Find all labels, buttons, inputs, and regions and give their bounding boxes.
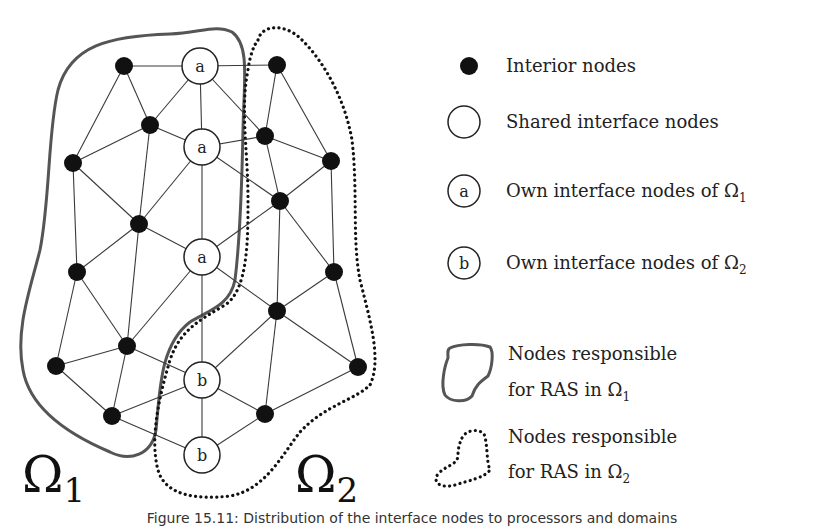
interface-node-label: b [197, 371, 207, 390]
mesh-edge [73, 66, 124, 163]
mesh-edge [127, 224, 139, 346]
legend-label: Own interface nodes of Ω2 [506, 252, 747, 277]
filled-circle-icon [460, 57, 478, 75]
mesh-edge [73, 163, 77, 272]
legend-item-shared: Shared interface nodes [448, 106, 719, 138]
legend-label: Own interface nodes of Ω1 [506, 180, 747, 205]
interior-node [268, 56, 286, 74]
legend-label-line2: for RAS in Ω2 [508, 461, 630, 486]
interior-node [325, 263, 343, 281]
mesh-edge [265, 136, 280, 201]
empty-circle-icon [448, 106, 480, 138]
mesh-edge [56, 366, 112, 416]
figure-caption: Figure 15.11: Distribution of the interf… [0, 510, 824, 526]
interior-node [118, 337, 136, 355]
legend: Interior nodes Shared interface nodes a … [436, 55, 747, 486]
mesh-edge [265, 136, 331, 161]
legend-label: Interior nodes [506, 55, 636, 76]
mesh-edge [73, 125, 150, 163]
mesh-edge [280, 161, 331, 201]
mesh-edge [56, 272, 77, 366]
own-interface-node-omega1: a [182, 48, 218, 84]
mesh-edge [280, 201, 334, 272]
legend-item-own-omega1: a Own interface nodes of Ω1 [448, 175, 747, 207]
legend-item-own-omega2: b Own interface nodes of Ω2 [448, 247, 747, 279]
legend-label-line1: Nodes responsible [508, 426, 677, 447]
legend-label: Shared interface nodes [506, 111, 719, 132]
mesh-nodes: aaabb [47, 48, 367, 473]
interface-node-label: b [197, 446, 207, 465]
mesh-edge [77, 272, 127, 346]
mesh-edge [277, 65, 331, 161]
circle-a-letter: a [459, 182, 469, 201]
interior-node [322, 152, 340, 170]
mesh-edge [331, 161, 334, 272]
interface-node-label: a [197, 138, 207, 157]
mesh-edge [124, 66, 150, 125]
mesh-edge [265, 311, 277, 414]
own-interface-node-omega2: b [184, 362, 220, 398]
mesh-edge [277, 201, 280, 311]
mesh-edge [73, 163, 139, 224]
interior-node [130, 215, 148, 233]
dotted-blob-icon [436, 431, 490, 487]
interior-node [349, 358, 367, 376]
legend-item-interior: Interior nodes [460, 55, 636, 76]
mesh-edge [265, 367, 358, 414]
own-interface-node-omega1: a [184, 239, 220, 275]
legend-item-ras-omega2: Nodes responsible for RAS in Ω2 [436, 426, 677, 486]
legend-label-line2: for RAS in Ω1 [508, 379, 630, 404]
interior-node [268, 302, 286, 320]
interior-node [141, 116, 159, 134]
interior-node [115, 57, 133, 75]
mesh-edge [139, 125, 150, 224]
circle-b-letter: b [459, 254, 469, 273]
interior-node [64, 154, 82, 172]
solid-blob-icon [443, 344, 492, 400]
mesh-edge [56, 346, 127, 366]
mesh-edge [112, 346, 127, 416]
interior-node [68, 263, 86, 281]
interior-node [271, 192, 289, 210]
interior-node [103, 407, 121, 425]
mesh-edge [265, 65, 277, 136]
interior-node [256, 405, 274, 423]
omega1-label: Ω1 [22, 446, 85, 510]
omega2-label: Ω2 [295, 446, 358, 510]
legend-label-line1: Nodes responsible [508, 343, 677, 364]
interface-node-label: a [195, 57, 205, 76]
own-interface-node-omega1: a [184, 129, 220, 165]
mesh-edge [277, 272, 334, 311]
legend-item-ras-omega1: Nodes responsible for RAS in Ω1 [443, 343, 677, 404]
mesh-edge [77, 224, 139, 272]
diagram-canvas: aaabb Ω1 Ω2 Interior nodes Shared interf… [0, 0, 824, 527]
interface-node-label: a [197, 248, 207, 267]
interior-node [47, 357, 65, 375]
own-interface-node-omega2: b [184, 437, 220, 473]
interior-node [256, 127, 274, 145]
